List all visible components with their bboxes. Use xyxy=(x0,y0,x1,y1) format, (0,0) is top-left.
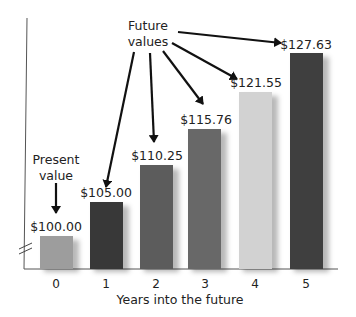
value-label: $110.25 xyxy=(131,149,183,163)
y-axis xyxy=(24,18,27,269)
annotation-line: Future xyxy=(128,18,169,34)
x-axis-title: Years into the future xyxy=(116,292,243,307)
future-value-bar-chart: $100.00 $105.00 $110.25 $115.76 $121.55 … xyxy=(0,0,356,317)
value-label: $100.00 xyxy=(30,220,82,234)
x-tick-label: 4 xyxy=(251,277,259,291)
annotation-line: value xyxy=(33,168,80,184)
value-label: $115.76 xyxy=(180,113,232,127)
value-label: $105.00 xyxy=(80,186,132,200)
x-tick-label: 5 xyxy=(302,277,310,291)
axis-break-icon xyxy=(19,243,32,254)
annotation-line: Present xyxy=(33,152,80,168)
value-label: $127.63 xyxy=(280,38,332,52)
x-tick-label: 3 xyxy=(201,277,209,291)
bar-year-0 xyxy=(40,236,73,269)
value-label: $121.55 xyxy=(230,76,282,90)
present-value-annotation: Present value xyxy=(33,152,80,184)
annotation-line: values xyxy=(128,34,169,50)
bar-year-1 xyxy=(90,202,123,269)
x-tick-label: 2 xyxy=(152,277,160,291)
bar-year-2 xyxy=(140,165,173,269)
future-values-annotation: Future values xyxy=(128,18,169,50)
bar-year-3 xyxy=(188,129,221,269)
bar-year-4 xyxy=(239,92,272,269)
bar-year-5 xyxy=(290,53,323,269)
x-tick-label: 0 xyxy=(52,277,60,291)
x-tick-label: 1 xyxy=(102,277,110,291)
